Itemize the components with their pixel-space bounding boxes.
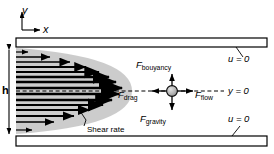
force-label-gravity: Fgravity [140,114,166,124]
force-subscript-flow: flow [201,94,213,101]
channel-height-label: h [2,85,9,96]
u-zero-top-label: u = 0 [228,54,249,64]
flow-diagram-figure: y x h Shear rate u = 0 y = 0 u = 0 Fbouy… [0,0,274,154]
force-label-flow: Fflow [195,90,213,100]
bottom-wall [16,136,267,146]
force-subscript-bouyancy: bouyancy [142,64,171,71]
force-symbol-flow: F [195,89,201,100]
force-label-drag: Fdrag [118,90,137,100]
top-wall [16,38,267,47]
y-axis-label: y [22,5,28,16]
leader-line-u-bottom [232,126,240,136]
y-zero-label: y = 0 [228,86,249,96]
diagram-canvas [0,0,274,154]
force-symbol-bouyancy: F [136,59,142,70]
particle-circle [167,86,178,97]
force-subscript-drag: drag [124,94,138,101]
shear-rate-label: Shear rate [87,126,124,134]
particle-force-system [152,74,193,110]
force-label-bouyancy: Fbouyancy [136,60,171,70]
force-symbol-drag: F [118,89,124,100]
force-symbol-gravity: F [140,113,146,124]
velocity-profile-shading [16,48,132,134]
force-subscript-gravity: gravity [146,118,166,125]
x-axis-label: x [43,24,49,35]
u-zero-bottom-label: u = 0 [228,114,249,124]
